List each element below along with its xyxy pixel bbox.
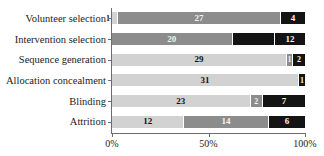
bar-segment-value: 27 <box>194 14 203 23</box>
bar-row: 2012 <box>112 33 305 45</box>
stacked-bar-chart: Volunteer selectionIntervention selectio… <box>0 0 324 156</box>
bar-segment-dark: 4 <box>281 12 305 24</box>
y-tick-6 <box>108 122 112 123</box>
bar-segment-value: 2 <box>254 97 258 106</box>
bar-segment-value: 1 <box>300 76 304 85</box>
bar-segment-value: 4 <box>291 14 296 23</box>
bar-segment-value: 20 <box>167 35 176 44</box>
bar-segment-value: 6 <box>285 117 290 126</box>
bar-segment-medium: 14 <box>184 116 268 128</box>
y-tick-4 <box>108 80 112 81</box>
x-tick-2 <box>209 133 210 137</box>
x-tick-1 <box>112 133 113 137</box>
bar-segment-value: 14 <box>222 117 231 126</box>
bar-segment-medium: 20 <box>112 33 233 45</box>
bar-segment-value: 23 <box>176 97 185 106</box>
bar-row: 12146 <box>112 116 305 128</box>
y-axis-label-3: Sequence generation <box>0 54 106 65</box>
bar-segment-medium: 2 <box>251 95 263 107</box>
bar-segment-dark: 1 <box>299 74 305 86</box>
x-tick-label-2: 50% <box>199 138 217 149</box>
x-tick-label-3: 100% <box>293 138 316 149</box>
x-tick-label-1: 0% <box>105 138 118 149</box>
y-axis-label-4: Allocation concealment <box>0 75 106 86</box>
bar-segment-light: 23 <box>112 95 251 107</box>
bar-segment-medium: 27 <box>118 12 281 24</box>
bar-segment-value: 7 <box>282 97 287 106</box>
bar-segment-dark: 7 <box>263 95 305 107</box>
x-tick-3 <box>305 133 306 137</box>
y-axis-label-6: Attrition <box>0 116 106 127</box>
bar-segment-light: 29 <box>112 54 287 66</box>
bar-segment-dark <box>233 33 275 45</box>
bar-segment-value: 1 <box>287 55 291 64</box>
y-tick-2 <box>108 39 112 40</box>
bar-segment-dark: 12 <box>275 33 305 45</box>
bar-segment-value: 2 <box>297 55 301 64</box>
bar-row: 2912 <box>112 54 305 66</box>
y-axis-label-1: Volunteer selection <box>0 13 106 24</box>
y-axis-category-labels: Volunteer selectionIntervention selectio… <box>0 8 106 132</box>
bar-segment-dark: 6 <box>269 116 305 128</box>
y-tick-1 <box>108 18 112 19</box>
bar-segment-light: 31 <box>112 74 299 86</box>
bar-row: 311 <box>112 74 305 86</box>
bar-row: 1274 <box>112 12 305 24</box>
bar-segment-value: 31 <box>200 76 209 85</box>
bar-segment-light: 12 <box>112 116 184 128</box>
bar-segment-value: 12 <box>143 117 152 126</box>
y-tick-5 <box>108 101 112 102</box>
y-axis-label-2: Intervention selection <box>0 34 106 45</box>
y-axis-label-5: Blinding <box>0 96 106 107</box>
y-tick-3 <box>108 60 112 61</box>
bar-segment-value: 29 <box>194 55 203 64</box>
bar-segment-value: 12 <box>285 35 294 44</box>
bar-segment-dark: 2 <box>293 54 305 66</box>
plot-area: 127420122912311232712146 <box>112 8 305 132</box>
bar-row: 2327 <box>112 95 305 107</box>
